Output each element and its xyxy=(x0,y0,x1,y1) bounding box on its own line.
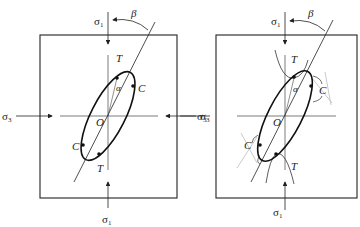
right-point-t-top xyxy=(292,75,296,79)
left-c-bottom-label: C xyxy=(72,140,80,152)
right-sigma3-left-label: σ3 xyxy=(200,110,210,124)
right-point-c-bottom xyxy=(258,143,262,147)
right-sigma1-top-label: σ1 xyxy=(271,15,281,29)
right-origin-label: O xyxy=(273,116,281,128)
right-specimen-box xyxy=(216,35,357,198)
right-c-bottom-label: C xyxy=(244,139,252,151)
left-inclined-plane-line xyxy=(74,22,155,182)
right-point-c-top xyxy=(309,84,313,88)
left-point-c-top xyxy=(131,84,135,88)
left-panel: σ1 σ1 σ3 σ3 β T α C O C T xyxy=(2,7,207,227)
right-inclined-plane-line xyxy=(251,20,333,182)
right-point-t-bottom xyxy=(274,152,278,156)
left-sigma1-top-label: σ1 xyxy=(94,15,104,29)
right-t-bottom-label: T xyxy=(291,160,298,172)
right-c-top-label: C xyxy=(319,84,327,96)
left-t-top-label: T xyxy=(116,52,123,64)
left-origin-label: O xyxy=(96,116,104,128)
left-c-top-label: C xyxy=(138,82,146,94)
left-sigma1-bottom-label: σ1 xyxy=(102,213,112,227)
left-sigma3-left-label: σ3 xyxy=(2,110,12,124)
right-tension-curve-bottom xyxy=(266,154,294,184)
right-alpha-label: α xyxy=(293,84,298,94)
right-t-top-label: T xyxy=(291,53,298,65)
left-t-bottom-label: T xyxy=(97,162,104,174)
left-beta-label: β xyxy=(130,7,137,19)
right-panel: σ1 σ1 σ3 β T α C O C T xyxy=(180,7,357,220)
left-point-c-bottom xyxy=(81,143,85,147)
right-beta-arc xyxy=(290,20,325,31)
left-alpha-label: α xyxy=(116,83,121,93)
diagram-canvas: σ1 σ1 σ3 σ3 β T α C O C T xyxy=(0,0,360,227)
left-beta-arc xyxy=(113,19,148,30)
right-sigma1-bottom-label: σ1 xyxy=(273,206,283,220)
left-point-t-top xyxy=(115,76,119,80)
left-point-t-bottom xyxy=(97,152,101,156)
left-specimen-box xyxy=(40,35,177,198)
right-beta-label: β xyxy=(307,7,314,19)
